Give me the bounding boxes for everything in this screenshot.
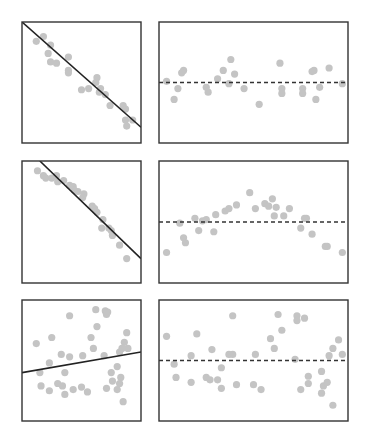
- data-point: [120, 398, 127, 405]
- data-point: [103, 311, 110, 318]
- data-point: [79, 352, 86, 359]
- data-point: [70, 386, 77, 393]
- data-point: [171, 361, 178, 368]
- data-point: [171, 96, 178, 103]
- data-point: [280, 212, 287, 219]
- data-point: [301, 315, 308, 322]
- data-point: [53, 60, 60, 67]
- data-point: [240, 85, 247, 92]
- data-point: [324, 379, 331, 386]
- data-point: [269, 195, 276, 202]
- data-point: [339, 351, 346, 358]
- data-point: [78, 86, 85, 93]
- data-point: [84, 388, 91, 395]
- data-point: [45, 50, 52, 57]
- data-point: [123, 329, 130, 336]
- data-point: [90, 345, 97, 352]
- data-point: [205, 89, 212, 96]
- data-point: [316, 84, 323, 91]
- data-point: [329, 402, 336, 409]
- data-point: [220, 67, 227, 74]
- data-point: [329, 345, 336, 352]
- data-point: [265, 203, 272, 210]
- data-point: [250, 381, 257, 388]
- data-point: [58, 351, 65, 358]
- data-point: [246, 189, 253, 196]
- panel-row1-left: [22, 22, 141, 143]
- panel-row3-left: [22, 300, 141, 421]
- data-point: [123, 255, 130, 262]
- data-point: [335, 336, 342, 343]
- data-point: [188, 379, 195, 386]
- data-point: [163, 78, 170, 85]
- data-point: [176, 220, 183, 227]
- data-point: [108, 369, 115, 376]
- plot-area: [159, 56, 348, 108]
- data-point: [46, 387, 53, 394]
- data-point: [293, 317, 300, 324]
- data-point: [85, 85, 92, 92]
- data-point: [61, 369, 68, 376]
- data-point: [297, 225, 304, 232]
- data-point: [324, 243, 331, 250]
- data-point: [305, 380, 312, 387]
- data-point: [218, 385, 225, 392]
- data-point: [214, 376, 221, 383]
- data-point: [229, 312, 236, 319]
- data-point: [174, 85, 181, 92]
- data-point: [92, 306, 99, 313]
- data-point: [98, 225, 105, 232]
- data-point: [48, 334, 55, 341]
- data-point: [274, 311, 281, 318]
- data-point: [276, 60, 283, 67]
- data-point: [312, 96, 319, 103]
- data-point: [47, 58, 54, 65]
- data-point: [163, 249, 170, 256]
- data-point: [103, 385, 110, 392]
- plot-area: [22, 22, 141, 130]
- regression-line: [22, 22, 141, 127]
- panel-row2-right: [159, 161, 348, 283]
- plot-area: [159, 311, 348, 409]
- data-point: [37, 382, 44, 389]
- data-point: [33, 340, 40, 347]
- panel-frame: [22, 161, 141, 283]
- data-point: [339, 249, 346, 256]
- data-point: [172, 374, 179, 381]
- data-point: [59, 382, 66, 389]
- data-point: [267, 335, 274, 342]
- data-point: [318, 390, 325, 397]
- plot-area: [34, 161, 141, 262]
- data-point: [318, 368, 325, 375]
- data-point: [206, 376, 213, 383]
- panel-row2-left: [22, 161, 141, 283]
- data-point: [93, 323, 100, 330]
- data-point: [34, 167, 41, 174]
- data-point: [225, 80, 232, 87]
- data-point: [178, 69, 185, 76]
- data-point: [214, 75, 221, 82]
- data-point: [229, 351, 236, 358]
- data-point: [116, 242, 123, 249]
- data-point: [78, 384, 85, 391]
- data-point: [195, 227, 202, 234]
- data-point: [114, 386, 121, 393]
- data-point: [66, 312, 73, 319]
- plot-area: [22, 306, 141, 405]
- panel-frame: [22, 22, 141, 143]
- panel-row1-right: [159, 22, 348, 143]
- data-point: [257, 386, 264, 393]
- data-point: [188, 352, 195, 359]
- data-point: [114, 363, 121, 370]
- data-point: [218, 364, 225, 371]
- data-point: [278, 327, 285, 334]
- data-point: [109, 377, 116, 384]
- data-point: [210, 228, 217, 235]
- data-point: [308, 231, 315, 238]
- data-point: [87, 334, 94, 341]
- data-point: [310, 67, 317, 74]
- data-point: [212, 211, 219, 218]
- data-point: [273, 204, 280, 211]
- panel-row3-right: [159, 300, 348, 421]
- data-point: [208, 346, 215, 353]
